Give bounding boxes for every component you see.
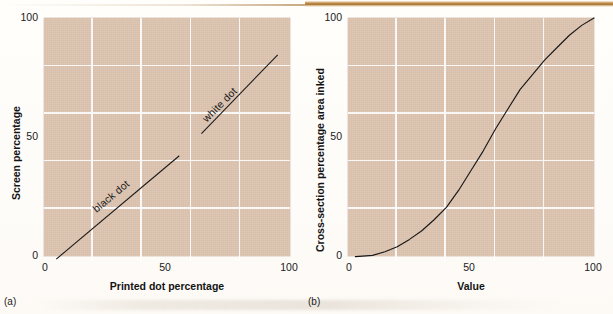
chart-panel-a: black dot white dot 100 50 0 0 50 100 Pr…: [0, 0, 306, 314]
tickmark-x-20-a: [91, 256, 92, 261]
tickmark-x-80-b: [543, 256, 544, 261]
tickmark-x-40-b: [444, 256, 445, 261]
tickmark-x-80-a: [239, 256, 240, 261]
series-curve-b: [348, 18, 594, 264]
tickmark-x-40-a: [140, 256, 141, 261]
panel-caption-a: (a): [4, 296, 16, 307]
xaxis-title-a: Printed dot percentage: [44, 280, 290, 292]
yaxis-title-b: Cross-section percentage area inked: [314, 68, 326, 252]
series-lines-a: [44, 18, 290, 264]
xtick-100-b: 100: [583, 261, 603, 273]
plot-area-b: [348, 18, 594, 256]
figure-page: black dot white dot 100 50 0 0 50 100 Pr…: [0, 0, 613, 314]
xtick-50-a: 50: [158, 261, 172, 273]
chart-panel-b: 100 50 0 0 50 100 Value Cross-section pe…: [306, 0, 613, 314]
xtick-0-b: 0: [342, 261, 356, 273]
plot-area-a: black dot white dot: [44, 18, 290, 256]
xtick-100-a: 100: [279, 261, 299, 273]
tickmark-x-60-b: [494, 256, 495, 261]
line-dot-gain-response: [355, 18, 594, 257]
xtick-50-b: 50: [462, 261, 476, 273]
tickmark-x-20-b: [395, 256, 396, 261]
ytick-0-a: 0: [10, 249, 38, 261]
line-white-dot: [201, 55, 277, 134]
line-black-dot: [56, 156, 179, 259]
ytick-100-a: 100: [10, 11, 38, 23]
xtick-0-a: 0: [38, 261, 52, 273]
xaxis-title-b: Value: [348, 280, 594, 292]
yaxis-title-a: Screen percentage: [10, 106, 22, 200]
ytick-100-b: 100: [314, 11, 342, 23]
panel-caption-b: (b): [308, 296, 320, 307]
tickmark-x-60-a: [190, 256, 191, 261]
